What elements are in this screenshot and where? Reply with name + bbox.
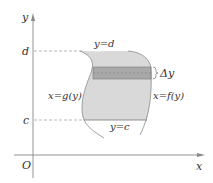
right-curve-label: x=f(y) (153, 90, 184, 101)
delta-y-label: Δy (159, 67, 175, 80)
shaded-region (80, 51, 151, 120)
area-between-curves-diagram: y x O d c y=d y=c x=g(y) x=f(y) Δy (0, 0, 213, 183)
c-label: c (23, 114, 29, 127)
left-curve-label: x=g(y) (48, 90, 82, 101)
diagram-canvas: y x O d c y=d y=c x=g(y) x=f(y) Δy (0, 0, 213, 183)
y-axis-arrow-icon (31, 13, 35, 21)
top-curve-label: y=d (93, 38, 114, 49)
delta-y-brace-icon (153, 67, 158, 79)
bottom-curve-label: y=c (109, 121, 130, 132)
x-axis-arrow-icon (197, 153, 205, 157)
y-axis-label: y (21, 11, 29, 24)
x-axis-label: x (196, 160, 203, 173)
origin-label: O (22, 159, 31, 172)
d-label: d (22, 45, 29, 58)
